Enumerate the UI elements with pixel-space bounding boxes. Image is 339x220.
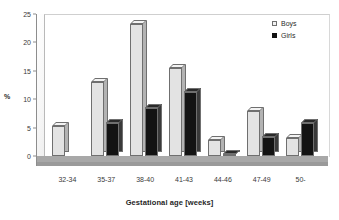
bar-group-32-34	[52, 14, 82, 156]
bar-boys-38-40	[130, 24, 143, 156]
bar-boys-50-	[286, 138, 299, 156]
bar-face	[286, 138, 299, 156]
y-tick-label-15: 15	[23, 67, 31, 74]
bar-boys-32-34	[52, 126, 65, 156]
x-tick-label-35-37: 35-37	[97, 176, 115, 183]
bar-side	[158, 104, 162, 152]
bar-girls-41-43	[184, 92, 197, 156]
bar-group-35-37	[91, 14, 121, 156]
x-tick-label-41-43: 41-43	[175, 176, 193, 183]
y-tick-label-20: 20	[23, 39, 31, 46]
x-tick-label-32-34: 32-34	[58, 176, 76, 183]
bar-face	[247, 111, 260, 156]
bar-face	[184, 92, 197, 156]
bar-face	[169, 68, 182, 156]
legend-label-boys: Boys	[281, 20, 297, 27]
bar-side	[314, 119, 318, 152]
bar-girls-38-40	[145, 108, 158, 156]
bar-group-44-46	[208, 14, 238, 156]
bar-girls-50-	[301, 123, 314, 156]
bar-girls-47-49	[262, 137, 275, 156]
bar-boys-41-43	[169, 68, 182, 156]
y-tick-label-5: 5	[27, 124, 31, 131]
bar-boys-44-46	[208, 140, 221, 156]
bar-group-41-43	[169, 14, 199, 156]
bar-boys-35-37	[91, 82, 104, 156]
y-tick-label-10: 10	[23, 96, 31, 103]
bar-side	[119, 119, 123, 152]
legend-item-girls: Girls	[272, 30, 297, 40]
bar-girls-44-46	[223, 154, 236, 156]
bar-face	[223, 154, 236, 156]
legend-swatch-boys-icon	[272, 21, 277, 26]
bar-face	[262, 137, 275, 156]
bar-girls-35-37	[106, 123, 119, 156]
chart-legend: Boys Girls	[272, 18, 297, 42]
x-axis-title: Gestational age [weeks]	[0, 198, 339, 207]
x-tick-label-50-: 50-	[296, 176, 306, 183]
bar-face	[301, 123, 314, 156]
bar-group-38-40	[130, 14, 160, 156]
bar-face	[130, 24, 143, 156]
x-tick-label-38-40: 38-40	[136, 176, 154, 183]
bar-boys-47-49	[247, 111, 260, 156]
bar-face	[106, 123, 119, 156]
chart-figure: 0510152025 % 32-3435-3738-4041-4344-4647…	[0, 0, 339, 220]
y-tick-label-0: 0	[27, 153, 31, 160]
bar-face	[52, 126, 65, 156]
x-axis-tick-labels: 32-3435-3738-4041-4344-4647-4950-	[36, 176, 328, 188]
bar-face	[91, 82, 104, 156]
legend-swatch-girls-icon	[272, 33, 277, 38]
bar-face	[145, 108, 158, 156]
bar-side	[197, 88, 201, 152]
bar-side	[65, 122, 69, 152]
x-tick-label-44-46: 44-46	[214, 176, 232, 183]
legend-label-girls: Girls	[281, 32, 295, 39]
bar-top	[223, 150, 240, 154]
bar-face	[208, 140, 221, 156]
y-tick-label-25: 25	[23, 11, 31, 18]
legend-item-boys: Boys	[272, 18, 297, 28]
y-axis-title: %	[4, 93, 10, 100]
x-tick-label-47-49: 47-49	[253, 176, 271, 183]
